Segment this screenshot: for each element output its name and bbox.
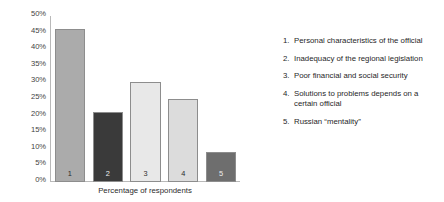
legend-item-label: Poor financial and social security bbox=[294, 71, 435, 82]
legend-item: 5.Russian “mentality” bbox=[283, 117, 435, 128]
y-axis-tick-label: 35% bbox=[10, 60, 46, 68]
legend-item: 1.Personal characteristics of the offici… bbox=[283, 36, 435, 47]
y-axis-tick-labels: 50%45%40%35%30%25%20%15%10%5%0% bbox=[10, 14, 46, 182]
legend-item-label: Inadequacy of the regional legislation bbox=[294, 54, 435, 65]
legend-item-number: 4. bbox=[283, 89, 293, 100]
y-axis-tick-label: 50% bbox=[10, 10, 46, 18]
x-axis-label: Percentage of respondents bbox=[50, 186, 240, 196]
y-axis-tick-label: 40% bbox=[10, 43, 46, 51]
legend-item-number: 3. bbox=[283, 71, 293, 82]
bar: 3 bbox=[130, 82, 160, 182]
y-axis-tick-label: 10% bbox=[10, 143, 46, 151]
bar-category-label: 5 bbox=[207, 169, 235, 178]
bar-category-label: 2 bbox=[94, 169, 122, 178]
bar: 4 bbox=[168, 99, 198, 182]
legend: 1.Personal characteristics of the offici… bbox=[283, 36, 435, 127]
y-axis-tick-label: 20% bbox=[10, 110, 46, 118]
y-axis-tick-label: 30% bbox=[10, 76, 46, 84]
y-axis-tick-label: 45% bbox=[10, 27, 46, 35]
bar-category-label: 1 bbox=[56, 169, 84, 178]
bar-category-label: 4 bbox=[169, 169, 197, 178]
legend-item: 3.Poor financial and social security bbox=[283, 71, 435, 82]
bar-category-label: 3 bbox=[131, 169, 159, 178]
plot-area: 50%45%40%35%30%25%20%15%10%5%0% 12345 Pe… bbox=[0, 0, 250, 202]
y-axis-tick-label: 25% bbox=[10, 93, 46, 101]
bar: 1 bbox=[55, 29, 85, 182]
y-axis-tick-label: 5% bbox=[10, 159, 46, 167]
y-axis-tick-label: 15% bbox=[10, 126, 46, 134]
legend-item: 4.Solutions to problems depends on a cer… bbox=[283, 89, 435, 110]
y-axis-tick-label: 0% bbox=[10, 176, 46, 184]
legend-item-number: 1. bbox=[283, 36, 293, 47]
legend-item-label: Russian “mentality” bbox=[294, 117, 435, 128]
legend-item-number: 5. bbox=[283, 117, 293, 128]
bar: 5 bbox=[206, 152, 236, 182]
bar: 2 bbox=[93, 112, 123, 182]
legend-item-number: 2. bbox=[283, 54, 293, 65]
legend-item: 2.Inadequacy of the regional legislation bbox=[283, 54, 435, 65]
bar-series: 12345 bbox=[51, 16, 240, 182]
legend-item-label: Personal characteristics of the official bbox=[294, 36, 435, 47]
legend-item-label: Solutions to problems depends on a certa… bbox=[294, 89, 435, 110]
bar-chart-figure: 50%45%40%35%30%25%20%15%10%5%0% 12345 Pe… bbox=[0, 0, 444, 202]
